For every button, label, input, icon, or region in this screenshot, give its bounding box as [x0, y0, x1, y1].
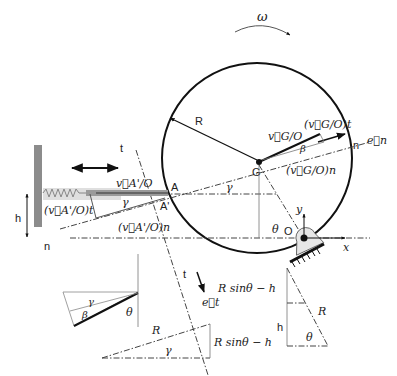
svg-text:γ: γ — [165, 344, 172, 357]
n-right-label: n — [353, 139, 359, 151]
v-A-O-n-label: (v⃗A'/O)n — [118, 221, 170, 234]
gamma-A-label: γ — [122, 196, 129, 209]
e-n-label: e⃗n — [367, 134, 387, 147]
svg-text:R: R — [151, 324, 160, 337]
theta-O-label: θ — [272, 223, 279, 236]
n-left-label: n — [44, 240, 50, 252]
inset-theta-triangle: R sinθ − h h R θ — [217, 268, 328, 346]
e-t-label: e⃗t — [202, 296, 220, 309]
e-t-arrow — [197, 272, 204, 292]
disk — [162, 63, 352, 253]
omega-rotation-arrow: ω — [235, 9, 290, 35]
t-upper-label: t — [120, 142, 123, 154]
omega-label: ω — [257, 9, 268, 24]
svg-text:θ: θ — [306, 331, 313, 344]
mechanism-diagram: ω R n e⃗n t t e⃗t v⃗A'/O A A' γ (v⃗A'/O)… — [0, 0, 397, 376]
wall — [34, 145, 42, 227]
beta-G-label: β — [299, 143, 306, 154]
svg-text:R: R — [317, 305, 326, 318]
svg-text:R sinθ − h: R sinθ − h — [217, 282, 276, 295]
x-axis-label: x — [343, 241, 350, 254]
inset-velocity-triangle: γ β θ — [63, 254, 138, 327]
svg-text:R sinθ − h: R sinθ − h — [213, 336, 272, 349]
svg-text:β: β — [81, 309, 88, 320]
v-A-O-t-label: (v⃗A'/O)t — [44, 204, 94, 217]
v-G-O-label: v⃗G/O — [268, 130, 302, 143]
v-G-O-t-label: (v⃗G/O)t — [304, 118, 352, 131]
svg-text:θ: θ — [126, 306, 133, 319]
svg-text:γ: γ — [88, 296, 94, 307]
inset-gamma-triangle: R γ R sinθ − h — [102, 324, 272, 358]
point-O-label: O — [284, 225, 293, 237]
gamma-G-label: γ — [226, 181, 233, 194]
radius-label: R — [195, 115, 203, 127]
v-A-O-label: v⃗A'/O — [116, 177, 153, 190]
point-A-label: A — [171, 181, 179, 193]
y-axis-label: y — [295, 203, 303, 216]
v-G-O-n-label: (v⃗G/O)n — [286, 164, 336, 177]
radius-line — [170, 118, 257, 160]
svg-text:h: h — [277, 321, 283, 333]
h-left-label: h — [15, 212, 21, 224]
t-lower-label: t — [183, 268, 186, 280]
point-A-prime-label: A' — [160, 200, 169, 212]
normal-line-n — [60, 142, 370, 229]
